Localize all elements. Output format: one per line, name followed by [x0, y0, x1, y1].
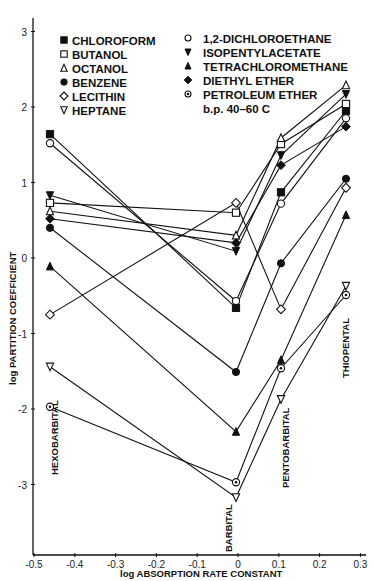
y-tick-label: 3: [21, 27, 27, 38]
label-barbital: BARBITAL: [223, 504, 234, 552]
filled-diamond-marker-icon: [46, 214, 55, 223]
x-axis-label: log ABSORPTION RATE CONSTANT: [120, 568, 283, 579]
filled-triangle-up-marker-icon: [185, 63, 191, 70]
series-line: [50, 94, 346, 251]
open-triangle-down-marker-icon: [277, 396, 284, 404]
legend-item-label: CHLOROFORM: [72, 35, 156, 47]
filled-diamond-marker-icon: [184, 76, 192, 84]
dotted-circle-marker-icon: [185, 91, 191, 97]
open-diamond-marker-icon: [277, 305, 286, 314]
series-line: [50, 104, 346, 213]
legend-item-label: DIETHYL ETHER: [203, 75, 295, 87]
x-tick-label: -0.5: [25, 559, 43, 570]
filled-triangle-up-marker-icon: [342, 211, 349, 219]
filled-triangle-down-marker-icon: [277, 152, 284, 160]
y-tick-label: -2: [18, 404, 27, 415]
open-triangle-down-marker-icon: [232, 494, 239, 502]
legend-item-label: BENZENE: [72, 77, 127, 89]
open-triangle-up-marker-icon: [61, 64, 67, 71]
series-line: [50, 118, 346, 301]
open-circle-marker-icon: [185, 35, 191, 41]
x-tick-label: 0.2: [313, 559, 327, 570]
open-diamond-marker-icon: [232, 198, 241, 207]
y-tick-label: -3: [18, 480, 27, 491]
filled-diamond-marker-icon: [232, 239, 241, 248]
filled-triangle-up-marker-icon: [46, 262, 53, 270]
series-lines: [50, 85, 346, 497]
legend-item-label: BUTANOL: [72, 49, 127, 61]
open-triangle-down-marker-icon: [342, 282, 349, 290]
dotted-circle-marker-icon: [277, 365, 284, 372]
open-circle-marker-icon: [277, 200, 284, 207]
y-tick-label: 0: [21, 253, 27, 264]
dotted-circle-marker-icon: [46, 403, 53, 410]
series-line: [50, 188, 346, 315]
x-tick-label: -0.4: [66, 559, 84, 570]
filled-circle-marker-icon: [277, 260, 284, 267]
dotted-circle-marker-icon: [342, 291, 349, 298]
series-line: [50, 179, 346, 372]
label-thiopental: THIOPENTAL: [340, 318, 351, 378]
y-axis-label: log PARTITION COEFFICIENT: [7, 251, 18, 385]
open-triangle-up-marker-icon: [342, 81, 349, 89]
legend-item-label: HEPTANE: [72, 105, 126, 117]
open-diamond-marker-icon: [46, 310, 55, 319]
filled-triangle-up-marker-icon: [277, 356, 284, 364]
series-markers: [46, 81, 351, 501]
x-tick-label: 0.3: [353, 559, 367, 570]
open-circle-marker-icon: [232, 297, 239, 304]
legend-item-label: ISOPENTYLACETATE: [203, 47, 321, 59]
open-triangle-up-marker-icon: [277, 134, 284, 142]
label-pentobarbital: PENTOBARBITAL: [280, 407, 291, 488]
open-triangle-down-marker-icon: [46, 363, 53, 371]
series-line: [50, 215, 346, 432]
filled-triangle-down-marker-icon: [232, 248, 239, 256]
open-square-marker-icon: [61, 51, 67, 57]
series-line: [50, 295, 346, 482]
legend-item-label: PETROLEUM ETHER: [203, 89, 318, 101]
filled-triangle-down-marker-icon: [185, 49, 191, 56]
open-circle-marker-icon: [342, 115, 349, 122]
dotted-circle-marker-icon: [232, 479, 239, 486]
legend-item-label: LECITHIN: [72, 91, 125, 103]
legend-item-label: OCTANOL: [72, 63, 128, 75]
filled-square-marker-icon: [277, 189, 284, 196]
filled-circle-marker-icon: [61, 79, 67, 85]
legend-item-label: TETRACHLOROMETHANE: [203, 61, 348, 73]
open-triangle-down-marker-icon: [61, 107, 67, 114]
label-hexobarbital: HEXOBARBITAL: [49, 400, 60, 475]
filled-circle-marker-icon: [232, 368, 239, 375]
filled-square-marker-icon: [232, 304, 239, 311]
filled-diamond-marker-icon: [342, 122, 351, 131]
open-diamond-marker-icon: [342, 183, 351, 192]
filled-square-marker-icon: [46, 131, 53, 138]
y-tick-label: 1: [21, 178, 27, 189]
legend-item-label: 1,2-DICHLOROETHANE: [203, 33, 332, 45]
filled-square-marker-icon: [61, 37, 67, 43]
chart: 3210-1-2-3 -0.5-0.4-0.3-0.2-0.100.10.20.…: [0, 0, 374, 581]
filled-circle-marker-icon: [46, 224, 53, 231]
series-line: [50, 286, 346, 497]
open-diamond-marker-icon: [60, 92, 68, 100]
open-square-marker-icon: [342, 100, 349, 107]
filled-circle-marker-icon: [342, 175, 349, 182]
open-circle-marker-icon: [46, 140, 53, 147]
legend-item-label: b.p. 40–60 C: [203, 103, 270, 115]
open-square-marker-icon: [232, 209, 239, 216]
y-tick-label: -1: [18, 329, 27, 340]
legend: CHLOROFORMBUTANOLOCTANOLBENZENELECITHINH…: [60, 33, 348, 117]
filled-square-marker-icon: [342, 107, 349, 114]
y-tick-label: 2: [21, 102, 27, 113]
series-line: [50, 111, 346, 308]
